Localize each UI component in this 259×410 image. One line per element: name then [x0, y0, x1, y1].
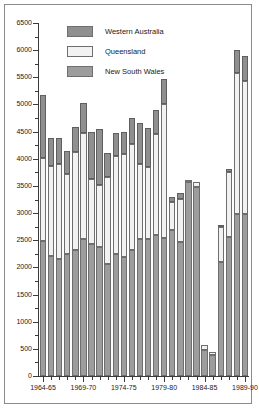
x-axis-tick-minor: [213, 377, 214, 380]
bar-segment-western-australia: [80, 103, 86, 133]
x-axis-tick-minor: [148, 377, 149, 380]
bar-segment-new-south-wales: [113, 254, 119, 376]
bar-segment-western-australia: [48, 138, 54, 166]
bar-segment-queensland: [161, 104, 167, 238]
y-axis-tick-label: 3000: [2, 209, 32, 216]
x-axis-tick-minor: [172, 377, 173, 380]
bar-segment-western-australia: [161, 79, 167, 103]
bar-segment-western-australia: [72, 127, 78, 152]
x-axis-tick-minor: [51, 377, 52, 380]
y-axis-tick-label: 2500: [2, 236, 32, 243]
bar-segment-queensland: [234, 73, 240, 214]
y-axis-tick-major: [33, 349, 38, 350]
y-axis-labels: 0500100015002000250030003500400045005000…: [5, 5, 32, 405]
legend-swatch-new-south-wales: [67, 66, 93, 77]
bar-segment-queensland: [80, 133, 86, 239]
x-axis-tick-minor: [221, 377, 222, 380]
bar-segment-new-south-wales: [234, 214, 240, 376]
y-axis-tick-major: [33, 50, 38, 51]
x-axis-tick-label: 1964-65: [30, 384, 56, 391]
bar-segment-new-south-wales: [137, 239, 143, 376]
x-axis-tick-minor: [140, 377, 141, 380]
bar-segment-new-south-wales: [177, 242, 183, 376]
bar-1964-65: [40, 23, 46, 376]
x-axis-tick-minor: [197, 377, 198, 380]
y-axis-tick-label: 1000: [2, 318, 32, 325]
bar-segment-queensland: [209, 352, 215, 355]
bar-segment-queensland: [201, 345, 207, 350]
bar-segment-new-south-wales: [104, 264, 110, 376]
bar-segment-queensland: [113, 156, 119, 254]
y-axis-tick-label: 4500: [2, 128, 32, 135]
bar-1983-84: [193, 23, 199, 376]
y-axis-tick-major: [33, 77, 38, 78]
bar-segment-new-south-wales: [145, 239, 151, 376]
y-axis-tick-minor: [35, 308, 38, 309]
y-axis-tick-label: 6500: [2, 19, 32, 26]
x-axis-tick-minor: [108, 377, 109, 380]
bar-segment-western-australia: [169, 197, 175, 202]
x-axis-tick-major: [43, 377, 44, 382]
y-axis-tick-label: 6000: [2, 46, 32, 53]
bar-segment-queensland: [121, 154, 127, 257]
y-axis-tick-major: [33, 295, 38, 296]
bar-segment-queensland: [72, 152, 78, 250]
legend-swatch-western-australia: [67, 26, 93, 37]
bar-segment-western-australia: [56, 138, 62, 164]
bar-segment-western-australia: [145, 128, 151, 168]
bar-segment-new-south-wales: [72, 250, 78, 376]
y-axis-tick-label: 0: [2, 372, 32, 379]
bar-segment-new-south-wales: [88, 244, 94, 377]
y-axis-tick-major: [33, 267, 38, 268]
bar-segment-western-australia: [96, 129, 102, 185]
bar-segment-western-australia: [177, 193, 183, 199]
x-axis-tick-minor: [132, 377, 133, 380]
bar-segment-western-australia: [153, 110, 159, 134]
y-axis-tick-major: [33, 159, 38, 160]
bar-segment-new-south-wales: [96, 247, 102, 376]
bar-segment-queensland: [242, 81, 248, 215]
bar-segment-western-australia: [242, 56, 248, 80]
bar-segment-western-australia: [64, 151, 70, 174]
bar-segment-new-south-wales: [64, 254, 70, 376]
x-axis-tick-label: 1989-90: [232, 384, 258, 391]
bar-segment-queensland: [40, 158, 46, 242]
bar-segment-new-south-wales: [169, 230, 175, 376]
x-axis-tick-minor: [237, 377, 238, 380]
y-axis-tick-minor: [35, 254, 38, 255]
bar-segment-queensland: [145, 167, 151, 239]
y-axis-tick-major: [33, 213, 38, 214]
bar-segment-western-australia: [129, 118, 135, 144]
bar-segment-queensland: [169, 202, 175, 230]
y-axis-tick-minor: [35, 145, 38, 146]
bar-segment-queensland: [185, 180, 191, 182]
y-axis-tick-minor: [35, 64, 38, 65]
bar-segment-queensland: [218, 227, 224, 262]
bar-segment-western-australia: [137, 123, 143, 164]
y-axis-tick-major: [33, 240, 38, 241]
bar-segment-new-south-wales: [209, 355, 215, 376]
bar-segment-new-south-wales: [40, 241, 46, 376]
x-axis-tick-minor: [75, 377, 76, 380]
y-axis-tick-label: 4000: [2, 155, 32, 162]
x-axis-tick-minor: [67, 377, 68, 380]
bar-segment-queensland: [64, 174, 70, 254]
y-axis-tick-label: 5000: [2, 100, 32, 107]
bar-segment-new-south-wales: [161, 238, 167, 376]
x-axis-tick-major: [205, 377, 206, 382]
bar-1980-81: [169, 23, 175, 376]
bar-segment-queensland: [226, 172, 232, 237]
x-axis-tick-minor: [156, 377, 157, 380]
bar-1988-89: [234, 23, 240, 376]
x-axis-tick-major: [124, 377, 125, 382]
bar-segment-new-south-wales: [242, 214, 248, 376]
y-axis-tick-label: 5500: [2, 73, 32, 80]
y-axis-tick-minor: [35, 91, 38, 92]
bar-1982-83: [185, 23, 191, 376]
bar-segment-queensland: [193, 182, 199, 187]
y-axis-tick-major: [33, 104, 38, 105]
y-axis-tick-label: 3500: [2, 182, 32, 189]
bar-segment-queensland: [48, 166, 54, 256]
bar-segment-western-australia: [226, 169, 232, 172]
bar-segment-new-south-wales: [56, 259, 62, 376]
